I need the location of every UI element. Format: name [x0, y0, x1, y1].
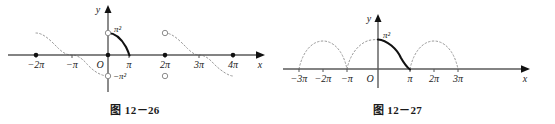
filled-point-neg-2pi [34, 53, 39, 58]
xtick-label-4pi: 4π [228, 59, 239, 70]
figure-12-27: y x O −3π −2π −π π 2π 3π π² 图 12－27 [275, 0, 555, 124]
xtick-label-neg-2pi: −2π [315, 73, 333, 84]
xtick-label-neg-2pi: −2π [28, 59, 46, 70]
y-axis-arrow [375, 14, 382, 22]
plot-12-26: y x O −2π −π π 2π 3π 4π π² −π² [0, 0, 280, 100]
x-axis-arrow [521, 65, 530, 72]
xtick-label-2pi: 2π [429, 73, 440, 84]
y-axis-arrow [105, 5, 112, 13]
filled-point-4pi [231, 53, 236, 58]
y-axis-label: y [95, 4, 101, 15]
solid-curve-principal [378, 40, 410, 70]
ylabel-pi-squared: π² [114, 24, 122, 34]
xtick-label-3pi: 3π [452, 73, 464, 84]
xtick-label-neg-pi: −π [66, 59, 79, 70]
dashed-arch-left [299, 41, 347, 69]
plot-12-27: y x O −3π −2π −π π 2π 3π π² [275, 0, 555, 100]
figure-page: y x O −2π −π π 2π 3π 4π π² −π² 图 12－26 [0, 0, 555, 124]
figure-12-26: y x O −2π −π π 2π 3π 4π π² −π² 图 12－26 [0, 0, 280, 124]
y-axis-label: y [366, 13, 372, 24]
open-point-2pi-neg-pi2 [162, 73, 167, 78]
filled-point-2pi [163, 53, 168, 58]
ylabel-pi-squared: π² [383, 30, 391, 40]
open-point-0-pi2 [105, 30, 110, 35]
open-point-0-neg-pi2 [105, 73, 110, 78]
figure-caption-12-27: 图 12－27 [275, 101, 520, 117]
xtick-label-pi: π [126, 59, 132, 70]
ylabel-neg-pi-squared: −π² [113, 71, 127, 81]
xtick-label-3pi: 3π [193, 59, 205, 70]
x-axis-label: x [257, 59, 263, 70]
open-point-2pi-pi2 [162, 30, 167, 35]
filled-point-origin [106, 53, 111, 58]
figure-caption-12-26: 图 12－26 [0, 101, 270, 117]
x-axis-arrow [256, 51, 265, 58]
xtick-label-neg-pi: −π [341, 73, 354, 84]
xtick-label-2pi: 2π [160, 59, 171, 70]
xtick-label-neg-3pi: −3π [291, 73, 309, 84]
dashed-arch-right [410, 41, 458, 69]
solid-curve-principal [108, 33, 130, 56]
origin-label: O [366, 73, 373, 84]
origin-label: O [96, 59, 103, 70]
dashed-arch-center-left-half [347, 40, 378, 70]
x-axis-label: x [522, 73, 528, 84]
xtick-label-pi: π [407, 73, 413, 84]
